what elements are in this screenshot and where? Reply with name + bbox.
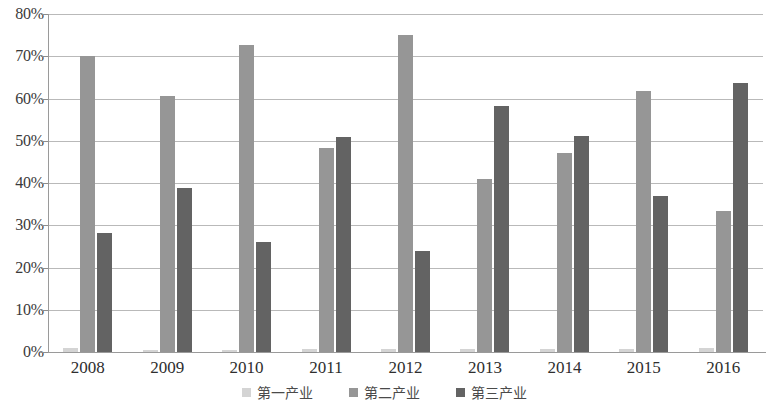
bar-2009-series1 [143, 350, 158, 352]
y-axis-tick [41, 352, 48, 353]
x-axis-tick-label: 2012 [366, 356, 445, 380]
bar-2013-series3 [494, 106, 509, 352]
bar-group [604, 14, 683, 352]
legend-label-series1: 第一产业 [257, 386, 313, 400]
bar-2015-series1 [619, 349, 634, 352]
y-axis-tick [41, 225, 48, 226]
bar-2009-series3 [177, 188, 192, 352]
bar-group [525, 14, 604, 352]
y-axis-tick-label: 30% [0, 217, 44, 233]
y-axis-tick [41, 99, 48, 100]
x-axis-tick-label: 2008 [48, 356, 127, 380]
bar-2016-series1 [699, 348, 714, 352]
bar-2016-series3 [733, 83, 748, 352]
y-axis-labels: 0%10%20%30%40%50%60%70%80% [0, 0, 44, 403]
bar-group [127, 14, 206, 352]
y-axis-tick [41, 268, 48, 269]
bar-2011-series2 [319, 148, 334, 352]
bar-2014-series2 [557, 153, 572, 352]
legend-swatch-icon-series2 [349, 388, 358, 397]
y-axis-tick-label: 70% [0, 48, 44, 64]
x-axis-tick-label: 2009 [127, 356, 206, 380]
y-axis-tick [41, 56, 48, 57]
bar-group [286, 14, 365, 352]
legend-label-series2: 第二产业 [364, 386, 420, 400]
bar-2008-series2 [80, 56, 95, 352]
y-axis-tick-label: 40% [0, 175, 44, 191]
legend-item-series2[interactable]: 第二产业 [349, 386, 420, 400]
legend-swatch-icon-series1 [242, 388, 251, 397]
y-axis-tick [41, 183, 48, 184]
bar-2008-series1 [63, 348, 78, 352]
bar-2012-series2 [398, 35, 413, 352]
legend-item-series3[interactable]: 第三产业 [456, 386, 527, 400]
bar-2009-series2 [160, 96, 175, 352]
bar-2010-series2 [239, 45, 254, 352]
y-axis-tick [41, 14, 48, 15]
x-axis-tick-label: 2010 [207, 356, 286, 380]
y-axis-tick [41, 141, 48, 142]
x-axis-tick-label: 2015 [604, 356, 683, 380]
bar-2012-series3 [415, 251, 430, 352]
bar-2013-series2 [477, 179, 492, 352]
x-axis-tick-label: 2014 [525, 356, 604, 380]
bar-group [207, 14, 286, 352]
y-axis-tick-label: 0% [0, 344, 44, 360]
bar-2012-series1 [381, 349, 396, 352]
legend-label-series3: 第三产业 [471, 386, 527, 400]
bar-group [445, 14, 524, 352]
bar-2015-series3 [653, 196, 668, 352]
bar-groups [48, 14, 763, 352]
y-axis-tick-label: 80% [0, 6, 44, 22]
bar-2015-series2 [636, 91, 651, 352]
y-axis-tick-label: 20% [0, 260, 44, 276]
bar-group [684, 14, 763, 352]
x-axis-tick-label: 2011 [286, 356, 365, 380]
bar-group [366, 14, 445, 352]
bar-2014-series3 [574, 136, 589, 352]
bar-2010-series3 [256, 242, 271, 352]
bar-2010-series1 [222, 350, 237, 352]
x-axis-tick-label: 2016 [684, 356, 763, 380]
bar-chart: 0%10%20%30%40%50%60%70%80% 2008200920102… [0, 0, 769, 403]
bar-2011-series3 [336, 137, 351, 352]
legend-item-series1[interactable]: 第一产业 [242, 386, 313, 400]
y-axis-tick-label: 50% [0, 133, 44, 149]
chart-legend: 第一产业 第二产业 第三产业 [0, 382, 769, 403]
y-axis-tick [41, 310, 48, 311]
y-axis-tick-label: 60% [0, 91, 44, 107]
bar-2016-series2 [716, 211, 731, 352]
bar-group [48, 14, 127, 352]
bar-2013-series1 [460, 349, 475, 352]
bar-2014-series1 [540, 349, 555, 352]
y-axis-tick-label: 10% [0, 302, 44, 318]
bar-2008-series3 [97, 233, 112, 352]
x-axis-tick-label: 2013 [445, 356, 524, 380]
x-axis-labels: 200820092010201120122013201420152016 [48, 356, 763, 382]
bar-2011-series1 [302, 349, 317, 352]
legend-swatch-icon-series3 [456, 388, 465, 397]
x-axis-line [40, 352, 766, 353]
